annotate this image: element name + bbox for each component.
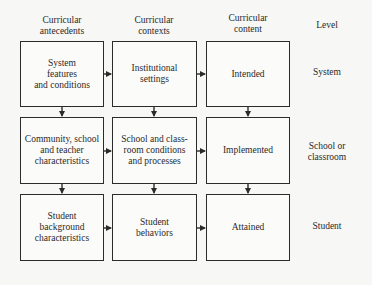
connector-arrows [0,0,372,285]
